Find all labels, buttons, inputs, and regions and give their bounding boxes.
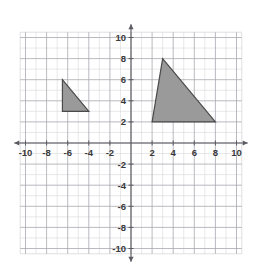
x-tick-label: 6 (192, 147, 197, 158)
x-tick-label: 2 (149, 147, 154, 158)
x-tick-label: 10 (231, 147, 242, 158)
y-tick-label: 6 (121, 74, 126, 85)
x-axis-arrow-right (243, 140, 248, 145)
small-triangle (62, 80, 88, 112)
y-tick-label: -6 (118, 201, 126, 212)
y-tick-label: 10 (115, 32, 126, 43)
y-tick-label: -10 (112, 243, 126, 254)
x-tick-label: 4 (171, 147, 177, 158)
x-tick-label: -2 (106, 147, 114, 158)
x-tick-label: -10 (19, 147, 33, 158)
y-axis-arrow-up (128, 24, 133, 29)
x-tick-label: 8 (213, 147, 218, 158)
x-axis-arrow-left (14, 140, 19, 145)
y-tick-label: 2 (121, 116, 126, 127)
x-tick-label: -6 (63, 147, 71, 158)
axes-lines (14, 24, 248, 262)
y-tick-label: -8 (118, 222, 126, 233)
coordinate-plane-svg: -10-8-6-4-2246810 108642-2-4-6-8-10 (0, 0, 259, 271)
y-tick-label: -4 (118, 180, 127, 191)
y-tick-label: 4 (121, 95, 127, 106)
x-tick-label: -4 (85, 147, 94, 158)
y-axis-arrow-down (128, 257, 133, 262)
y-tick-label: 8 (121, 53, 126, 64)
y-tick-label: -2 (118, 159, 126, 170)
coordinate-plane-figure: -10-8-6-4-2246810 108642-2-4-6-8-10 (0, 0, 259, 271)
x-axis-tick-labels: -10-8-6-4-2246810 (19, 147, 242, 158)
x-tick-label: -8 (42, 147, 50, 158)
